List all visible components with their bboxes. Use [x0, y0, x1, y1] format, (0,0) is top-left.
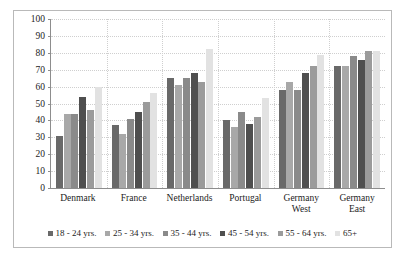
chart-legend: 18 - 24 yrs.25 - 34 yrs.35 - 44 yrs.45 -… [14, 225, 391, 241]
x-axis-label-line: Netherlands [162, 193, 218, 204]
bar [246, 124, 253, 188]
bar [198, 82, 205, 188]
y-axis-tick-label: 100 [19, 15, 45, 24]
legend-swatch-icon [48, 231, 53, 236]
x-axis-label: Denmark [50, 193, 106, 223]
legend-swatch-icon [335, 231, 340, 236]
y-axis-tick-label: 20 [19, 150, 45, 159]
bar-group [107, 19, 163, 188]
bar-group [218, 19, 274, 188]
legend-item[interactable]: 25 - 34 yrs. [105, 229, 154, 238]
legend-label: 18 - 24 yrs. [55, 229, 96, 238]
y-axis-tick-label: 80 [19, 48, 45, 57]
bar [279, 90, 286, 188]
legend-swatch-icon [105, 231, 110, 236]
plot-area: 1009080706050403020100 DenmarkFranceNeth… [14, 11, 393, 211]
x-axis-label: Portugal [217, 193, 273, 223]
bar [135, 112, 142, 188]
x-axis-labels: DenmarkFranceNetherlandsPortugalGermanyW… [50, 193, 385, 223]
legend-item[interactable]: 45 - 54 yrs. [220, 229, 269, 238]
y-axis-tick-label: 30 [19, 133, 45, 142]
bar [143, 102, 150, 188]
bar [71, 114, 78, 188]
y-axis-labels: 1009080706050403020100 [17, 11, 45, 211]
bar [262, 98, 269, 188]
bar [87, 110, 94, 188]
x-axis-label-line: France [106, 193, 162, 204]
y-axis-tick-mark [48, 188, 51, 189]
bar [95, 87, 102, 188]
x-axis-label-line: West [273, 204, 329, 215]
bar-plot [50, 19, 385, 189]
bar [373, 51, 380, 188]
bar [191, 73, 198, 188]
chart-container: 1009080706050403020100 DenmarkFranceNeth… [13, 10, 392, 248]
x-axis-label: France [106, 193, 162, 223]
legend-swatch-icon [278, 231, 283, 236]
x-axis-label: GermanyWest [273, 193, 329, 223]
bar [302, 73, 309, 188]
axis-area [50, 11, 385, 211]
bar [183, 78, 190, 188]
bar [358, 60, 365, 188]
bar [64, 114, 71, 188]
bar [317, 55, 324, 189]
bar [342, 66, 349, 188]
bar [231, 127, 238, 188]
bar [175, 85, 182, 188]
legend-item[interactable]: 65+ [335, 229, 357, 238]
bar-group [162, 19, 218, 188]
bar [167, 78, 174, 188]
legend-label: 25 - 34 yrs. [113, 229, 154, 238]
x-axis-label-line: Denmark [50, 193, 106, 204]
y-axis-tick-label: 90 [19, 31, 45, 40]
bar [119, 134, 126, 188]
bar [150, 93, 157, 188]
y-axis-tick-label: 70 [19, 65, 45, 74]
y-axis-tick-label: 10 [19, 167, 45, 176]
bar [365, 51, 372, 188]
legend-swatch-icon [220, 231, 225, 236]
bar [334, 66, 341, 188]
legend-label: 35 - 44 yrs. [170, 229, 211, 238]
bar [223, 120, 230, 188]
y-axis-tick-label: 60 [19, 82, 45, 91]
x-axis-label-line: Germany [273, 193, 329, 204]
bar [56, 136, 63, 188]
bar [79, 97, 86, 188]
legend-item[interactable]: 18 - 24 yrs. [48, 229, 97, 238]
bar [206, 49, 213, 188]
bar-group [329, 19, 385, 188]
bar-group [51, 19, 107, 188]
x-axis-label: Netherlands [162, 193, 218, 223]
bar [112, 125, 119, 188]
legend-label: 55 - 64 yrs. [285, 229, 326, 238]
y-axis-tick-label: 0 [19, 184, 45, 193]
x-axis-label-line: Portugal [217, 193, 273, 204]
x-axis-label: GermanyEast [329, 193, 385, 223]
bar [254, 117, 261, 188]
y-axis-tick-label: 40 [19, 116, 45, 125]
legend-item[interactable]: 55 - 64 yrs. [278, 229, 327, 238]
y-axis-tick-label: 50 [19, 99, 45, 108]
legend-swatch-icon [163, 231, 168, 236]
bar [310, 66, 317, 188]
legend-label: 45 - 54 yrs. [228, 229, 269, 238]
bar [286, 82, 293, 188]
bar [127, 119, 134, 188]
bar-group [274, 19, 330, 188]
bar [294, 90, 301, 188]
legend-item[interactable]: 35 - 44 yrs. [163, 229, 212, 238]
legend-label: 65+ [343, 229, 357, 238]
bar [238, 112, 245, 188]
x-axis-label-line: Germany [329, 193, 385, 204]
bar-groups [51, 19, 385, 188]
x-axis-label-line: East [329, 204, 385, 215]
bar [350, 56, 357, 188]
